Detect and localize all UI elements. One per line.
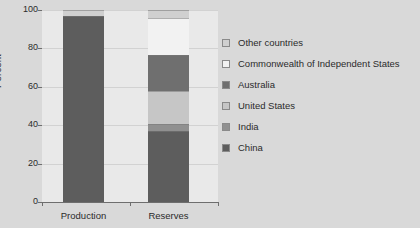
bar-segment[interactable] xyxy=(148,131,189,202)
legend-swatch-icon xyxy=(222,60,230,68)
y-tick-mark xyxy=(38,48,42,49)
bar-segment[interactable] xyxy=(148,55,189,91)
legend-item[interactable]: Australia xyxy=(222,74,420,95)
x-tick-mark xyxy=(42,202,43,206)
legend-swatch-icon xyxy=(222,81,230,89)
bar-segment[interactable] xyxy=(148,18,189,55)
y-tick-label: 40 xyxy=(16,120,38,129)
legend-label: China xyxy=(238,143,263,153)
plot-area xyxy=(42,10,218,202)
stacked-bar-chart: Percent 020406080100 ProductionReserves … xyxy=(0,0,420,228)
legend-label: Australia xyxy=(238,80,275,90)
legend-item[interactable]: Commonwealth of Independent States xyxy=(222,53,420,74)
legend-item[interactable]: India xyxy=(222,116,420,137)
legend-swatch-icon xyxy=(222,39,230,47)
legend: Other countriesCommonwealth of Independe… xyxy=(222,32,420,158)
bar-segment[interactable] xyxy=(148,91,189,124)
y-tick-mark xyxy=(38,87,42,88)
bar-segment[interactable] xyxy=(63,16,104,202)
y-tick-label: 100 xyxy=(16,5,38,14)
legend-item[interactable]: Other countries xyxy=(222,32,420,53)
y-tick-label: 0 xyxy=(16,197,38,206)
bar-reserves[interactable] xyxy=(148,10,189,202)
x-tick-label: Reserves xyxy=(119,210,219,221)
y-tick-label: 80 xyxy=(16,43,38,52)
bar-segment[interactable] xyxy=(148,10,189,18)
bar-production[interactable] xyxy=(63,10,104,202)
legend-label: Commonwealth of Independent States xyxy=(238,59,400,69)
bar-segment[interactable] xyxy=(63,10,104,16)
y-axis-title: Percent xyxy=(0,54,3,88)
legend-label: Other countries xyxy=(238,38,303,48)
legend-label: India xyxy=(238,122,259,132)
legend-label: United States xyxy=(238,101,295,111)
legend-swatch-icon xyxy=(222,102,230,110)
y-tick-mark xyxy=(38,164,42,165)
bar-segment[interactable] xyxy=(148,124,189,131)
x-tick-mark xyxy=(130,202,131,206)
legend-item[interactable]: United States xyxy=(222,95,420,116)
legend-item[interactable]: China xyxy=(222,137,420,158)
legend-swatch-icon xyxy=(222,123,230,131)
y-tick-label: 60 xyxy=(16,82,38,91)
y-tick-label: 20 xyxy=(16,159,38,168)
y-tick-mark xyxy=(38,10,42,11)
y-tick-mark xyxy=(38,125,42,126)
x-tick-mark xyxy=(218,202,219,206)
legend-swatch-icon xyxy=(222,144,230,152)
